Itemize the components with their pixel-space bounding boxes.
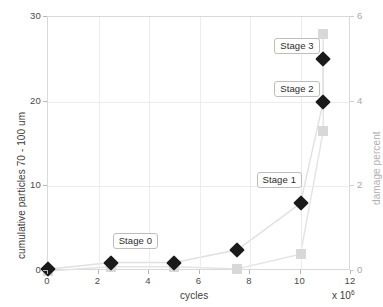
gridline-vertical [250,17,251,269]
stage-annotation-label: Stage 1 [257,172,302,189]
y-axis-right-tick-mark [350,16,354,17]
y-axis-left-tick-mark [43,185,47,186]
gridline-vertical [99,17,100,269]
x-axis-multiplier-exponent: 6 [351,289,355,296]
y-axis-right-tick-label: 4 [357,95,383,106]
plot-area [47,16,350,270]
gridline-vertical [301,17,302,269]
x-axis-tick-mark [249,270,250,274]
chart-figure: 0102030 0246 024681012 cumulative partic… [0,0,383,307]
x-axis-tick-label: 4 [133,275,163,286]
data-point-damage-percent [318,29,328,39]
x-axis-tick-mark [148,270,149,274]
x-axis-tick-label: 12 [335,275,365,286]
stage-annotation-label: Stage 3 [274,38,319,55]
damage-percent-line [48,34,323,271]
y-axis-left-tick-label: 20 [15,95,41,106]
x-axis-tick-label: 0 [32,275,62,286]
gridline-vertical [149,17,150,269]
gridline-horizontal [48,102,349,103]
x-axis-tick-mark [199,270,200,274]
y-axis-left-tick-mark [43,16,47,17]
x-axis-tick-label: 2 [83,275,113,286]
y-axis-left-tick-label: 0 [15,264,41,275]
y-axis-left-title: cumulative particles 70 - 100 um [16,112,27,259]
y-axis-right-tick-mark [350,185,354,186]
data-point-damage-percent [318,126,328,136]
y-axis-left-tick-label: 30 [15,10,41,21]
y-axis-right-tick-label: 0 [357,264,383,275]
x-axis-tick-label: 8 [234,275,264,286]
gridline-vertical [200,17,201,269]
x-axis-tick-label: 10 [285,275,315,286]
figure-caption [0,296,383,307]
x-axis-tick-mark [300,270,301,274]
gridline-horizontal [48,186,349,187]
x-axis-tick-mark [47,270,48,274]
y-axis-right-title: damage percent [371,131,382,205]
data-point-damage-percent [232,264,242,274]
stage-annotation-label: Stage 0 [113,233,158,250]
x-axis-tick-label: 6 [184,275,214,286]
y-axis-right-tick-label: 6 [357,10,383,21]
y-axis-right-tick-mark [350,101,354,102]
x-axis-tick-mark [350,270,351,274]
data-point-damage-percent [296,249,306,259]
stage-annotation-label: Stage 2 [274,81,319,98]
x-axis-tick-mark [98,270,99,274]
y-axis-left-tick-mark [43,101,47,102]
